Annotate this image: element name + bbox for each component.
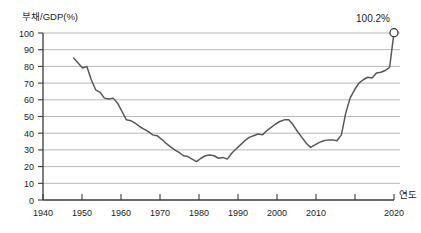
x-tick-label-1990: 1990 bbox=[228, 208, 248, 218]
y-tick-label-100: 100 bbox=[19, 29, 34, 39]
y-tick-label-0: 0 bbox=[29, 196, 34, 206]
x-axis-group: 1940 1950 1960 1970 1980 1990 2000 2010 … bbox=[33, 194, 404, 218]
x-tick-label-1960: 1960 bbox=[111, 208, 131, 218]
x-tick-label-2000: 2000 bbox=[267, 208, 287, 218]
debt-to-gdp-line-chart: 100 90 80 70 60 50 40 30 20 10 0 1940 1 bbox=[0, 0, 421, 233]
y-tick-label-20: 20 bbox=[24, 162, 34, 172]
x-tick-label-2020: 2020 bbox=[384, 208, 404, 218]
x-tick-label-1940: 1940 bbox=[33, 208, 53, 218]
x-axis-title: 연도 bbox=[399, 189, 417, 200]
endpoint-marker bbox=[390, 29, 398, 37]
y-tick-label-30: 30 bbox=[24, 145, 34, 155]
x-tick-label-2010: 2010 bbox=[306, 208, 326, 218]
chart-container: 100 90 80 70 60 50 40 30 20 10 0 1940 1 bbox=[0, 0, 421, 233]
y-axis-group: 100 90 80 70 60 50 40 30 20 10 0 bbox=[19, 29, 43, 206]
endpoint-value-label: 100.2% bbox=[356, 13, 390, 24]
y-tick-label-60: 60 bbox=[24, 95, 34, 105]
y-tick-label-40: 40 bbox=[24, 129, 34, 139]
y-tick-label-10: 10 bbox=[24, 179, 34, 189]
x-tick-label-1980: 1980 bbox=[189, 208, 209, 218]
y-tick-label-80: 80 bbox=[24, 62, 34, 72]
data-series-line bbox=[74, 33, 394, 162]
y-tick-label-90: 90 bbox=[24, 45, 34, 55]
y-axis-title: 부채/GDP(%) bbox=[22, 11, 78, 22]
x-tick-label-1970: 1970 bbox=[150, 208, 170, 218]
y-tick-label-50: 50 bbox=[24, 112, 34, 122]
x-tick-label-1950: 1950 bbox=[72, 208, 92, 218]
y-tick-label-70: 70 bbox=[24, 79, 34, 89]
